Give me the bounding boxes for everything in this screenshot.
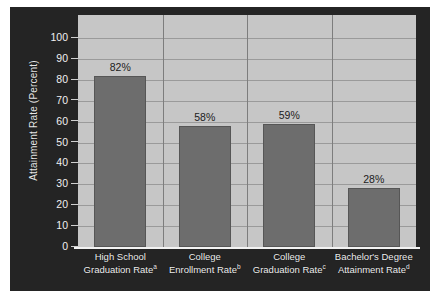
y-tick-label: 80 bbox=[56, 73, 68, 85]
y-tick-mark bbox=[71, 120, 78, 121]
y-tick-90: 90 bbox=[30, 52, 78, 66]
y-tick-mark bbox=[71, 58, 78, 59]
y-tick-label: 40 bbox=[56, 156, 68, 168]
y-tick-label: 0 bbox=[62, 240, 68, 252]
bar bbox=[348, 188, 400, 247]
category-label: Bachelor's DegreeAttainment Rated bbox=[332, 251, 417, 276]
category-label-line1: College bbox=[247, 251, 332, 264]
category-label: CollegeEnrollment Rateb bbox=[163, 251, 248, 276]
x-axis-baseline bbox=[74, 247, 420, 249]
y-tick-20: 20 bbox=[30, 198, 78, 212]
y-tick-mark bbox=[71, 37, 78, 38]
footnote-marker: d bbox=[406, 262, 410, 269]
category-label-line2: Graduation Ratea bbox=[78, 264, 163, 277]
category-divider bbox=[247, 15, 248, 247]
bar-value-label: 59% bbox=[259, 109, 319, 121]
bar-chart-figure: Attainment Rate (Percent) 10090807060504… bbox=[10, 7, 430, 291]
bar bbox=[94, 76, 146, 247]
category-label-line1: College bbox=[163, 251, 248, 264]
y-tick-100: 100 bbox=[30, 31, 78, 45]
y-tick-80: 80 bbox=[30, 73, 78, 87]
footnote-marker: b bbox=[237, 262, 241, 269]
category-label: CollegeGraduation Ratec bbox=[247, 251, 332, 276]
category-label-line2: Graduation Ratec bbox=[247, 264, 332, 277]
y-tick-mark bbox=[71, 204, 78, 205]
y-tick-40: 40 bbox=[30, 156, 78, 170]
y-tick-mark bbox=[71, 183, 78, 184]
y-tick-mark bbox=[71, 99, 78, 100]
y-tick-label: 70 bbox=[56, 94, 68, 106]
y-tick-label: 90 bbox=[56, 52, 68, 64]
y-tick-label: 50 bbox=[56, 136, 68, 148]
y-tick-60: 60 bbox=[30, 115, 78, 129]
y-tick-label: 20 bbox=[56, 198, 68, 210]
category-divider bbox=[163, 15, 164, 247]
y-tick-mark bbox=[71, 141, 78, 142]
y-axis-tick-labels: 1009080706050403020100 bbox=[30, 15, 78, 247]
y-tick-0: 0 bbox=[30, 240, 78, 254]
y-tick-label: 30 bbox=[56, 177, 68, 189]
y-tick-30: 30 bbox=[30, 177, 78, 191]
y-tick-70: 70 bbox=[30, 94, 78, 108]
bar-value-label: 28% bbox=[344, 173, 404, 185]
category-label-line1: Bachelor's Degree bbox=[332, 251, 417, 264]
y-tick-10: 10 bbox=[30, 219, 78, 233]
x-axis-category-labels: High SchoolGraduation RateaCollegeEnroll… bbox=[78, 251, 416, 285]
category-label-line2: Enrollment Rateb bbox=[163, 264, 248, 277]
plot-area: 82%58%59%28% bbox=[78, 15, 416, 247]
category-divider bbox=[332, 15, 333, 247]
bar bbox=[179, 126, 231, 247]
y-tick-mark bbox=[71, 79, 78, 80]
bar-value-label: 82% bbox=[90, 61, 150, 73]
y-tick-mark bbox=[71, 162, 78, 163]
category-label-line2: Attainment Rated bbox=[332, 264, 417, 277]
category-label-line1: High School bbox=[78, 251, 163, 264]
bar bbox=[263, 124, 315, 247]
y-tick-50: 50 bbox=[30, 136, 78, 150]
footnote-marker: a bbox=[153, 262, 157, 269]
category-label: High SchoolGraduation Ratea bbox=[78, 251, 163, 276]
y-tick-label: 60 bbox=[56, 115, 68, 127]
footnote-marker: c bbox=[322, 262, 325, 269]
bar-value-label: 58% bbox=[175, 111, 235, 123]
y-tick-label: 10 bbox=[56, 219, 68, 231]
y-tick-label: 100 bbox=[50, 31, 68, 43]
y-tick-mark bbox=[71, 225, 78, 226]
